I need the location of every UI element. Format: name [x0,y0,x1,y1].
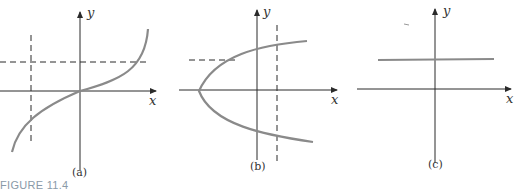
panel-c: y x (c) [357,3,514,171]
y-axis-label: y [262,4,271,19]
panel-b: y x (b) [179,4,339,173]
y-axis-label: y [442,3,451,18]
speck [404,24,409,25]
panel-label: (c) [428,158,443,171]
horizontal-line [378,59,494,60]
panel-a: y x (a) [0,5,157,179]
panel-label: (a) [72,166,87,179]
panel-label: (b) [250,160,266,173]
x-axis-label: x [149,93,157,108]
parabola [199,41,313,142]
x-axis-label: x [331,92,339,107]
figure-canvas: y x (a) y x (b) y x (c) [0,0,516,194]
figure-caption: FIGURE 11.4 [0,179,69,191]
y-axis-label: y [86,5,95,20]
x-axis-label: x [506,91,514,106]
